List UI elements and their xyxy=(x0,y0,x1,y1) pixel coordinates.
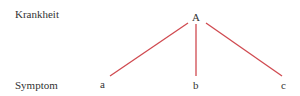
edges xyxy=(0,0,300,96)
edge-a xyxy=(110,23,188,76)
edge-c xyxy=(206,23,282,76)
